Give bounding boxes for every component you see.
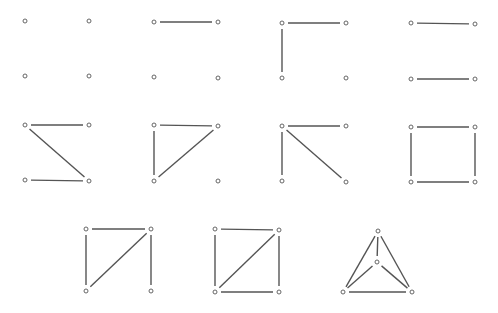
- graph-diagram-canvas: [0, 0, 498, 313]
- graph-1: [23, 19, 91, 78]
- graph-edge: [219, 234, 274, 288]
- graph-vertex-icon: [149, 289, 153, 293]
- graph-8: [409, 125, 477, 184]
- graph-vertex-icon: [409, 21, 413, 25]
- graph-vertex-icon: [23, 178, 27, 182]
- graph-vertex-icon: [216, 20, 220, 24]
- graph-2: [152, 20, 220, 80]
- graph-edge: [159, 130, 214, 177]
- graph-vertex-icon: [84, 289, 88, 293]
- graph-vertex-icon: [473, 22, 477, 26]
- graph-5: [23, 123, 91, 183]
- graph-vertex-icon: [344, 76, 348, 80]
- graph-vertex-icon: [375, 260, 379, 264]
- graph-vertex-icon: [87, 19, 91, 23]
- graph-edge: [377, 237, 378, 256]
- graph-vertex-icon: [409, 77, 413, 81]
- graph-vertex-icon: [277, 228, 281, 232]
- graph-vertex-icon: [344, 21, 348, 25]
- graph-9: [84, 227, 153, 293]
- graph-vertex-icon: [87, 123, 91, 127]
- graph-edge: [287, 130, 342, 178]
- graph-edge: [381, 236, 409, 287]
- graph-vertex-icon: [280, 76, 284, 80]
- graph-vertex-icon: [23, 74, 27, 78]
- graph-6: [152, 123, 220, 183]
- graph-edge: [346, 236, 375, 287]
- graph-vertex-icon: [152, 75, 156, 79]
- graph-edge: [31, 180, 83, 181]
- graph-vertex-icon: [213, 227, 217, 231]
- graph-vertex-icon: [344, 124, 348, 128]
- graph-7: [280, 124, 348, 184]
- graph-vertex-icon: [216, 179, 220, 183]
- graph-edge: [160, 125, 212, 126]
- graph-vertex-icon: [87, 179, 91, 183]
- graph-vertex-icon: [341, 290, 345, 294]
- graph-vertex-icon: [149, 227, 153, 231]
- graph-vertex-icon: [409, 125, 413, 129]
- graph-vertex-icon: [344, 180, 348, 184]
- graph-vertex-icon: [280, 179, 284, 183]
- graph-vertex-icon: [280, 124, 284, 128]
- graph-11: [341, 229, 414, 294]
- graph-vertex-icon: [277, 290, 281, 294]
- graph-vertex-icon: [216, 76, 220, 80]
- graph-4: [409, 21, 477, 81]
- graph-vertex-icon: [152, 179, 156, 183]
- graph-edge: [90, 233, 146, 287]
- graph-10: [213, 227, 281, 294]
- graph-vertex-icon: [409, 180, 413, 184]
- graph-edge: [417, 23, 469, 24]
- graph-vertex-icon: [23, 19, 27, 23]
- graph-3: [280, 21, 348, 80]
- graph-vertex-icon: [87, 74, 91, 78]
- graph-vertex-icon: [216, 124, 220, 128]
- graph-vertex-icon: [23, 123, 27, 127]
- graph-vertex-icon: [376, 229, 380, 233]
- graph-vertex-icon: [213, 290, 217, 294]
- graph-vertex-icon: [473, 125, 477, 129]
- graph-vertex-icon: [473, 77, 477, 81]
- graph-edge: [30, 129, 85, 177]
- graph-vertex-icon: [280, 21, 284, 25]
- graph-vertex-icon: [473, 180, 477, 184]
- graph-vertex-icon: [410, 290, 414, 294]
- graph-vertex-icon: [84, 227, 88, 231]
- graph-vertex-icon: [152, 20, 156, 24]
- graph-vertex-icon: [152, 123, 156, 127]
- graph-edge: [221, 229, 273, 230]
